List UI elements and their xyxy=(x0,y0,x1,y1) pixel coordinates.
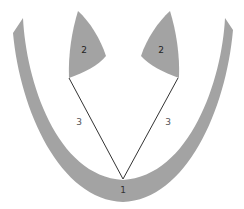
right-line-label: 3 xyxy=(165,117,171,127)
bottom-point-label: 1 xyxy=(120,185,126,195)
diagram-canvas: 2 2 3 3 1 xyxy=(0,0,244,209)
right-lobe-label: 2 xyxy=(158,45,164,55)
u-shaped-band xyxy=(13,18,233,202)
left-line-label: 3 xyxy=(76,117,82,127)
left-lobe-label: 2 xyxy=(81,45,87,55)
left-lobe xyxy=(69,11,106,78)
